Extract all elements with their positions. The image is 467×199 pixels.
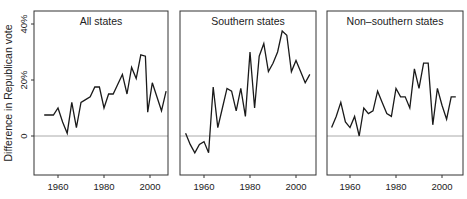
panel-1: All states196019802000020%40% [18,11,168,192]
x-tick-label: 1980 [385,181,406,192]
y-tick-label: 0 [18,133,29,138]
panel-title: Non–southern states [347,15,444,27]
panel-2: Southern states196019802000 [180,11,316,192]
y-axis-label: Difference in Republican vote [2,24,14,161]
y-tick-label: 20% [18,70,29,90]
data-line [186,31,310,153]
panels: All states196019802000020%40%Southern st… [18,11,463,192]
x-tick-label: 1980 [93,181,114,192]
panel-3: Non–southern states196019802000 [327,11,463,192]
y-axis-label-group: Difference in Republican vote [2,24,14,161]
x-tick-label: 1960 [339,181,360,192]
data-line [44,55,166,133]
x-tick-label: 2000 [139,181,160,192]
x-tick-label: 2000 [431,181,452,192]
y-tick-label: 40% [18,14,29,34]
panel-frame [180,11,316,175]
data-line [332,63,456,136]
x-tick-label: 1960 [47,181,68,192]
panel-title: Southern states [211,15,285,27]
x-tick-label: 2000 [285,181,306,192]
faceted-line-chart: Difference in Republican vote All states… [0,0,467,199]
panel-title: All states [80,15,123,27]
x-tick-label: 1960 [193,181,214,192]
x-tick-label: 1980 [239,181,260,192]
